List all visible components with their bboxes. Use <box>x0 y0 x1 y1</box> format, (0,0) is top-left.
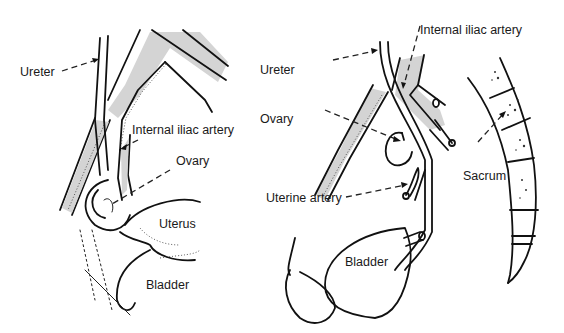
anatomy-illustration <box>0 0 564 333</box>
label-right-sacrum: Sacrum <box>463 170 506 183</box>
left-panel-drawing <box>60 30 228 315</box>
label-right-bladder: Bladder <box>345 256 388 269</box>
label-left-bladder: Bladder <box>146 279 189 292</box>
label-left-uterus: Uterus <box>159 218 196 231</box>
label-left-internal-iliac-artery: Internal iliac artery <box>132 124 234 137</box>
label-left-ovary: Ovary <box>176 155 209 168</box>
label-right-ovary: Ovary <box>260 113 293 126</box>
label-left-ureter: Ureter <box>20 66 55 79</box>
label-right-internal-iliac-artery: Internal iliac artery <box>420 24 522 37</box>
label-right-uterine-artery: Uterine artery <box>266 192 342 205</box>
label-right-ureter: Ureter <box>260 64 295 77</box>
pelvic-anatomy-diagram: Ureter Internal iliac artery Ovary Uteru… <box>0 0 564 333</box>
